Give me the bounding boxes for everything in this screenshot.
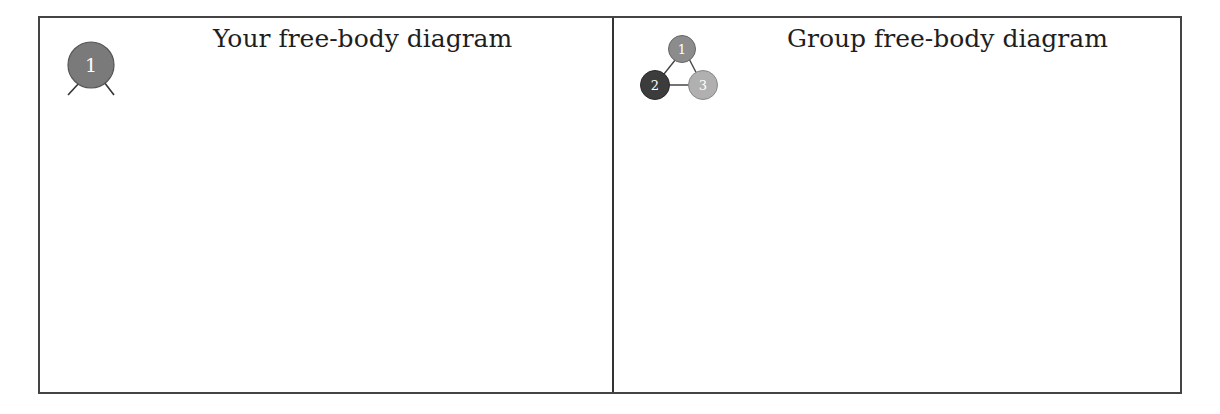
node-1-label: 1 <box>678 42 686 57</box>
your-diagram-panel[interactable]: 1 Your free-body diagram <box>40 18 614 392</box>
group-triangle-icon: 1 2 3 <box>616 32 716 112</box>
group-diagram-panel[interactable]: 1 2 3 Group free-body diagram <box>614 18 1180 392</box>
your-diagram-title: Your free-body diagram <box>213 24 512 54</box>
group-diagram-title: Group free-body diagram <box>787 24 1108 54</box>
node-1-label: 1 <box>85 54 97 76</box>
diagram-table: 1 Your free-body diagram 1 2 3 Group fre… <box>38 16 1182 394</box>
single-person-icon: 1 <box>62 38 122 100</box>
node-2-label: 2 <box>651 78 659 93</box>
node-3-label: 3 <box>699 78 707 93</box>
